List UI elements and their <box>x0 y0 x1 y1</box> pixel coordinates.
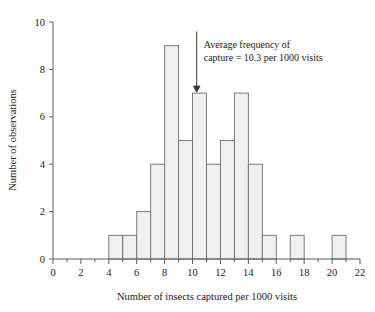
annotation-text-line2: capture = 10.3 per 1000 visits <box>204 52 323 63</box>
x-axis-tick-label: 6 <box>134 267 139 278</box>
y-axis-tick-label: 2 <box>40 206 45 217</box>
x-axis-tick-label: 22 <box>355 267 366 278</box>
histogram-bar <box>193 93 207 259</box>
x-axis-tick-label: 8 <box>162 267 167 278</box>
histogram-bar <box>137 212 151 259</box>
annotation-arrow-head <box>194 86 200 92</box>
x-axis-tick-label: 14 <box>243 267 254 278</box>
histogram-bar <box>207 164 221 259</box>
histogram-bar <box>332 235 346 259</box>
y-axis-tick-label: 0 <box>40 254 45 265</box>
x-axis-tick-label: 20 <box>327 267 338 278</box>
histogram-bar <box>262 235 276 259</box>
y-axis-tick-label: 10 <box>35 17 46 28</box>
x-axis-tick-label: 2 <box>78 267 83 278</box>
histogram-bar <box>165 46 179 259</box>
histogram-bar <box>234 93 248 259</box>
x-axis-tick-label: 12 <box>215 267 226 278</box>
y-axis-tick-label: 4 <box>40 159 46 170</box>
annotation-text-line1: Average frequency of <box>204 39 291 50</box>
bars-group <box>109 46 346 259</box>
histogram-bar <box>179 141 193 260</box>
x-axis-tick-label: 4 <box>106 267 112 278</box>
y-axis-tick-label: 6 <box>40 111 45 122</box>
x-axis-tick-label: 16 <box>271 267 282 278</box>
x-axis-tick-label: 18 <box>299 267 310 278</box>
histogram-bar <box>248 164 262 259</box>
histogram-bar <box>220 141 234 260</box>
x-axis-title: Number of insects captured per 1000 visi… <box>117 291 297 302</box>
histogram-bar <box>151 164 165 259</box>
x-axis-tick-label: 0 <box>50 267 55 278</box>
y-axis-title: Number of observations <box>7 89 18 190</box>
mean-annotation: Average frequency of capture = 10.3 per … <box>194 31 323 92</box>
chart-canvas: 0246810 0246810121416182022 Average freq… <box>0 0 375 312</box>
histogram-bar <box>290 235 304 259</box>
histogram-bar <box>109 235 123 259</box>
histogram-bar <box>123 235 137 259</box>
histogram-chart: 0246810 0246810121416182022 Average freq… <box>0 0 375 312</box>
y-ticks-group: 0246810 <box>35 17 54 265</box>
x-axis-tick-label: 10 <box>187 267 198 278</box>
y-axis-tick-label: 8 <box>40 64 45 75</box>
